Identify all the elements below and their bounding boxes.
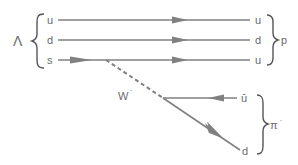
arrow-s-icon bbox=[70, 57, 92, 64]
arrow-u-out-icon bbox=[172, 57, 188, 64]
quark-line-d-meson bbox=[163, 98, 240, 150]
arrow-d-meson-head bbox=[205, 123, 222, 138]
proton-brace bbox=[267, 15, 278, 65]
w-boson-label: W bbox=[118, 90, 129, 102]
final-quark-u1: u bbox=[255, 14, 261, 26]
pion-brace bbox=[257, 95, 268, 154]
w-boson-propagator bbox=[106, 60, 163, 98]
w-boson-charge: - bbox=[130, 87, 132, 93]
meson-quark-d: d bbox=[242, 145, 248, 157]
arrow-antiu-icon bbox=[208, 95, 224, 102]
lambda-brace bbox=[32, 14, 44, 68]
initial-quark-u: u bbox=[47, 14, 53, 26]
pion-charge: - bbox=[280, 117, 282, 123]
proton-label: p bbox=[281, 34, 287, 46]
feynman-diagram: Λ u d s u d u p W - ū d π - bbox=[0, 0, 298, 165]
initial-quark-s: s bbox=[47, 54, 53, 66]
pion-label: π bbox=[270, 119, 278, 131]
lambda-label: Λ bbox=[13, 33, 23, 49]
meson-quark-antiu: ū bbox=[241, 92, 247, 104]
initial-quark-d: d bbox=[47, 34, 53, 46]
final-quark-d: d bbox=[255, 34, 261, 46]
arrow-d-icon bbox=[172, 37, 188, 44]
final-quark-u2: u bbox=[255, 54, 261, 66]
arrow-u-icon bbox=[172, 17, 188, 24]
